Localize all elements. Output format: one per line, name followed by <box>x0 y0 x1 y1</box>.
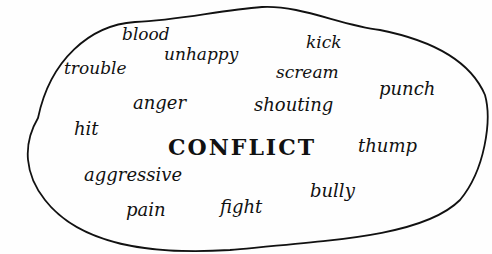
word-unhappy: unhappy <box>164 46 238 63</box>
word-thump: thump <box>358 137 417 155</box>
word-aggressive: aggressive <box>84 166 182 184</box>
word-shouting: shouting <box>254 96 333 114</box>
word-anger: anger <box>133 94 186 112</box>
word-fight: fight <box>220 198 262 216</box>
word-scream: scream <box>276 64 339 81</box>
word-bully: bully <box>310 182 355 200</box>
word-blood: blood <box>122 26 170 43</box>
word-hit: hit <box>74 120 99 138</box>
word-web-diagram: CONFLICT bloodunhappykicktroublescreampu… <box>0 0 492 254</box>
word-trouble: trouble <box>64 60 127 77</box>
center-word-conflict: CONFLICT <box>168 136 316 158</box>
word-kick: kick <box>306 34 342 51</box>
word-pain: pain <box>126 201 166 219</box>
word-punch: punch <box>379 80 435 98</box>
